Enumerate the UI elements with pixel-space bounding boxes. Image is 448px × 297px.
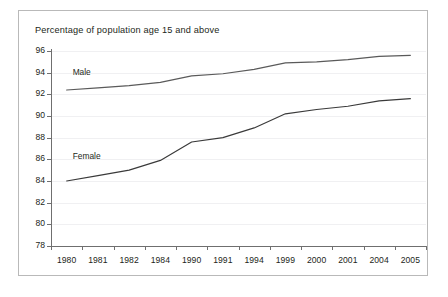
series-label-female: Female [73,151,101,161]
series-line-male [67,55,411,90]
series-lines [19,11,427,275]
series-line-female [67,99,411,181]
series-label-male: Male [73,67,91,77]
chart-frame: Percentage of population age 15 and abov… [18,10,428,276]
